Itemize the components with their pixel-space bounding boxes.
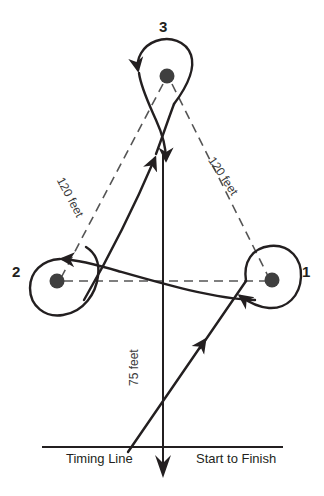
barrel-marker-1 <box>265 273 280 288</box>
pattern-illustration <box>0 0 324 496</box>
timing-line-label: Timing Line <box>66 452 133 465</box>
turn-loop-barrel-3 <box>138 39 193 160</box>
path-start-to-barrel-1 <box>128 281 246 452</box>
barrel-markers <box>50 69 280 289</box>
barrel-marker-2 <box>50 274 65 289</box>
barrel-label-2: 2 <box>12 264 20 279</box>
barrel-pattern-diagram: 3 2 1 120 feet 120 feet 75 feet Timing L… <box>0 0 324 496</box>
start-to-finish-label: Start to Finish <box>196 452 276 465</box>
start-run-continuation <box>200 281 246 348</box>
dimension-label-center: 75 feet <box>128 349 140 386</box>
barrel-marker-3 <box>160 69 175 84</box>
barrel-label-3: 3 <box>159 19 167 34</box>
barrel-label-1: 1 <box>302 264 310 279</box>
center-axis <box>155 155 171 478</box>
